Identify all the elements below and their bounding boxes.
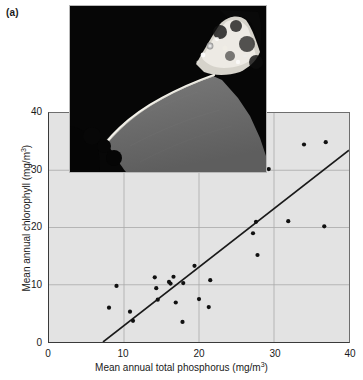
x-tick-label-40: 40 [337, 348, 363, 359]
regression-line-segment [103, 150, 349, 342]
data-point [131, 319, 135, 323]
data-point [128, 310, 132, 314]
y-axis-title-tail: ) [21, 145, 32, 148]
panel-label: (a) [6, 7, 19, 18]
data-point [192, 264, 196, 268]
data-point [255, 253, 259, 257]
data-point [322, 224, 326, 228]
x-axis-title-main: Mean annual total phosphorus (mg/m [95, 362, 261, 373]
x-axis-title-tail: ) [265, 362, 268, 373]
data-point [181, 281, 185, 285]
data-point [168, 282, 172, 286]
data-point [156, 298, 160, 302]
y-axis-title-exponent: 3 [20, 148, 27, 152]
x-tick-label-0: 0 [35, 348, 61, 359]
data-point [207, 305, 211, 309]
data-point [286, 219, 290, 223]
data-point [302, 142, 306, 146]
x-axis-title: Mean annual total phosphorus (mg/m3) [0, 361, 363, 373]
data-point [171, 275, 175, 279]
x-tick-label-30: 30 [262, 348, 288, 359]
data-point [153, 275, 157, 279]
inset-photograph [70, 6, 266, 172]
x-tick-label-20: 20 [186, 348, 212, 359]
data-point [107, 306, 111, 310]
data-point [208, 278, 212, 282]
data-point [324, 140, 328, 144]
y-axis-title: Mean annual chlorophyll (mg/m3) [20, 93, 32, 343]
shoreline-photo-graphic [70, 6, 266, 172]
y-axis-title-main: Mean annual chlorophyll (mg/m [21, 152, 32, 292]
data-point [154, 286, 158, 290]
data-point [254, 220, 258, 224]
x-tick-label-10: 10 [110, 348, 136, 359]
data-point [267, 167, 271, 171]
data-point [180, 320, 184, 324]
data-point [114, 284, 118, 288]
data-point [197, 297, 201, 301]
data-point [251, 231, 255, 235]
data-point [174, 300, 178, 304]
figure-panel-a: (a) [0, 0, 363, 380]
regression-line [103, 150, 349, 342]
